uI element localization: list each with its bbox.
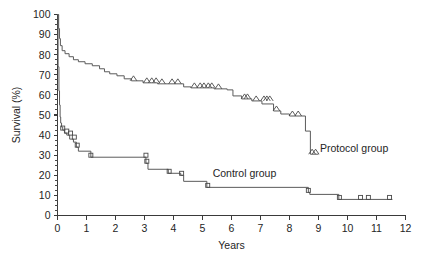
censor-triangle (159, 79, 166, 84)
y-tick-label: 80 (39, 49, 51, 61)
censor-square (75, 143, 79, 147)
y-tick-label: 20 (39, 169, 51, 181)
x-tick-label: 8 (287, 222, 293, 234)
x-axis-title: Years (218, 239, 244, 251)
censor-triangle (253, 96, 260, 101)
y-tick-label: 50 (39, 109, 51, 121)
x-tick-label: 3 (142, 222, 148, 234)
censor-triangle (312, 149, 319, 154)
censor-markers (61, 76, 392, 200)
kaplan-meier-chart: 0102030405060708090100 0123456789101112 … (0, 0, 426, 269)
survival-curve-protocol-group (58, 15, 319, 155)
censor-triangle (273, 106, 280, 111)
axes-layer: 0102030405060708090100 0123456789101112 (33, 8, 412, 234)
x-tick-label: 11 (371, 222, 382, 234)
x-tick-label: 6 (229, 222, 235, 234)
censor-square (72, 135, 76, 139)
x-tick-label: 7 (258, 222, 264, 234)
censor-triangle (174, 79, 181, 84)
y-tick-label: 0 (45, 209, 51, 221)
censor-square (145, 159, 149, 163)
censor-square (366, 195, 370, 199)
censor-square (337, 195, 341, 199)
series-labels: Protocol groupControl group (213, 142, 389, 179)
y-tick-label: 70 (39, 69, 51, 81)
x-tick-label: 5 (200, 222, 206, 234)
y-axis-tick-labels: 0102030405060708090100 (33, 8, 51, 221)
y-axis-title: Survival (%) (10, 87, 22, 144)
y-tick-label: 60 (39, 89, 51, 101)
survival-chart-figure: 0102030405060708090100 0123456789101112 … (0, 0, 426, 269)
censor-triangle (295, 111, 302, 116)
y-tick-label: 100 (33, 8, 51, 20)
x-tick-label: 2 (113, 222, 119, 234)
x-tick-label: 12 (400, 222, 412, 234)
annotation-protocol-group: Protocol group (320, 142, 388, 154)
y-tick-label: 30 (39, 149, 51, 161)
censor-triangle (215, 84, 222, 89)
x-axis-tick-labels: 0123456789101112 (55, 222, 412, 234)
censor-square (144, 153, 148, 157)
y-tick-label: 10 (39, 189, 51, 201)
x-tick-label: 4 (171, 222, 177, 234)
y-tick-label: 40 (39, 129, 51, 141)
x-tick-label: 0 (55, 222, 61, 234)
x-tick-label: 9 (316, 222, 322, 234)
annotation-control-group: Control group (213, 167, 277, 179)
x-axis-ticks (58, 216, 406, 221)
censor-triangle (208, 83, 215, 88)
censor-square (206, 183, 210, 187)
censor-triangle (309, 149, 316, 154)
annotation-layer: Protocol groupControl group (213, 142, 389, 179)
censor-square (167, 169, 171, 173)
censor-square (388, 195, 392, 199)
censor-square (359, 195, 363, 199)
x-tick-label: 10 (342, 222, 354, 234)
y-tick-label: 90 (39, 28, 51, 40)
x-tick-label: 1 (84, 222, 90, 234)
